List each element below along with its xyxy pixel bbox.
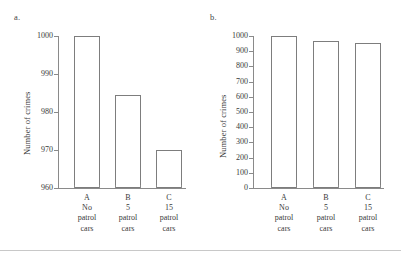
- y-tick-mark-icon: [249, 36, 253, 37]
- y-tick-label: 1000: [37, 32, 53, 40]
- y-tick-label: 200: [236, 154, 248, 162]
- bar-rect: [115, 95, 141, 188]
- y-tick-label: 980: [41, 108, 53, 116]
- panel-label-b: b.: [210, 12, 217, 22]
- y-tick-mark-icon: [249, 158, 253, 159]
- x-tick-mark-icon: [115, 185, 116, 189]
- category-label-line: A: [275, 193, 294, 203]
- bar-group-a: [59, 36, 186, 188]
- bar-rect: [355, 43, 381, 188]
- y-tick-mark-icon: [249, 51, 253, 52]
- category-label-line: patrol: [317, 213, 336, 223]
- category-label-line: patrol: [160, 213, 179, 223]
- category-label-line: 15: [160, 203, 179, 213]
- category-label-line: B: [119, 193, 138, 203]
- y-tick-label: 1000: [232, 32, 248, 40]
- y-tick-mark-icon: [249, 142, 253, 143]
- y-tick-label: 800: [236, 62, 248, 70]
- bar-rect: [271, 36, 297, 188]
- footer-divider-rule: [0, 250, 401, 251]
- category-label-line: cars: [119, 224, 138, 234]
- category-label-line: patrol: [359, 213, 378, 223]
- category-label-line: cars: [160, 224, 179, 234]
- bar-rect: [156, 150, 182, 188]
- x-tick-mark-icon: [140, 185, 141, 189]
- category-label-line: 5: [317, 203, 336, 213]
- y-tick-mark-icon: [249, 82, 253, 83]
- plot-area-b: 01002003004005006007008009001000: [253, 36, 384, 189]
- y-tick-mark-icon: [54, 150, 58, 151]
- bar-b-C: [355, 36, 381, 188]
- y-tick-label: 700: [236, 78, 248, 86]
- y-tick-label: 400: [236, 123, 248, 131]
- plot-area-a: 9609709809901000: [58, 36, 186, 189]
- y-tick-mark-icon: [249, 173, 253, 174]
- y-tick-label: 500: [236, 108, 248, 116]
- bar-b-B: [313, 36, 339, 188]
- bar-a-A: [74, 36, 100, 188]
- category-label-line: patrol: [119, 213, 138, 223]
- category-label-line: patrol: [78, 213, 97, 223]
- x-axis-line-a: [58, 188, 186, 189]
- category-label-line: cars: [359, 224, 378, 234]
- y-tick-label: 990: [41, 70, 53, 78]
- y-tick-mark-icon: [249, 66, 253, 67]
- x-tick-mark-icon: [313, 185, 314, 189]
- bar-rect: [74, 36, 100, 188]
- bar-rect: [313, 41, 339, 188]
- x-tick-mark-icon: [338, 185, 339, 189]
- y-axis-title-a: Number of crimes: [22, 92, 32, 155]
- x-tick-mark-icon: [355, 185, 356, 189]
- bar-b-A: [271, 36, 297, 188]
- category-label-b-A: ANopatrolcars: [275, 193, 294, 234]
- panel-label-a: a.: [14, 12, 20, 22]
- category-label-line: C: [160, 193, 179, 203]
- x-tick-mark-icon: [296, 185, 297, 189]
- category-label-line: No: [78, 203, 97, 213]
- category-label-a-B: B5patrolcars: [119, 193, 138, 234]
- y-tick-label: 600: [236, 93, 248, 101]
- category-label-line: cars: [317, 224, 336, 234]
- x-tick-mark-icon: [380, 185, 381, 189]
- category-label-b-B: B5patrolcars: [317, 193, 336, 234]
- category-label-b-C: C15patrolcars: [359, 193, 378, 234]
- y-tick-mark-icon: [54, 112, 58, 113]
- category-label-line: 5: [119, 203, 138, 213]
- category-label-a-C: C15patrolcars: [160, 193, 179, 234]
- x-tick-mark-icon: [271, 185, 272, 189]
- y-tick-label: 0: [244, 184, 248, 192]
- category-label-line: cars: [78, 224, 97, 234]
- y-tick-mark-icon: [249, 97, 253, 98]
- chart-panel-b: b. Number of crimes 01002003004005006007…: [200, 0, 400, 250]
- category-label-line: C: [359, 193, 378, 203]
- y-tick-label: 300: [236, 138, 248, 146]
- chart-panel-a: a. Number of crimes 9609709809901000 ANo…: [0, 0, 200, 250]
- bar-a-C: [156, 36, 182, 188]
- y-tick-mark-icon: [249, 127, 253, 128]
- y-tick-mark-icon: [249, 112, 253, 113]
- y-tick-mark-icon: [54, 188, 58, 189]
- x-tick-mark-icon: [74, 185, 75, 189]
- x-tick-mark-icon: [181, 185, 182, 189]
- x-axis-line-b: [253, 188, 384, 189]
- category-label-line: B: [317, 193, 336, 203]
- y-tick-label: 970: [41, 146, 53, 154]
- category-label-line: patrol: [275, 213, 294, 223]
- category-label-line: cars: [275, 224, 294, 234]
- y-tick-label: 100: [236, 169, 248, 177]
- bar-a-B: [115, 36, 141, 188]
- y-tick-mark-icon: [249, 188, 253, 189]
- category-label-line: A: [78, 193, 97, 203]
- y-axis-title-b: Number of crimes: [218, 95, 228, 158]
- x-tick-mark-icon: [156, 185, 157, 189]
- y-tick-label: 900: [236, 47, 248, 55]
- x-tick-mark-icon: [99, 185, 100, 189]
- bar-group-b: [254, 36, 384, 188]
- category-label-line: 15: [359, 203, 378, 213]
- y-tick-mark-icon: [54, 74, 58, 75]
- category-label-line: No: [275, 203, 294, 213]
- category-label-a-A: ANopatrolcars: [78, 193, 97, 234]
- figure-two-bar-charts: a. Number of crimes 9609709809901000 ANo…: [0, 0, 401, 262]
- y-tick-mark-icon: [54, 36, 58, 37]
- y-tick-label: 960: [41, 184, 53, 192]
